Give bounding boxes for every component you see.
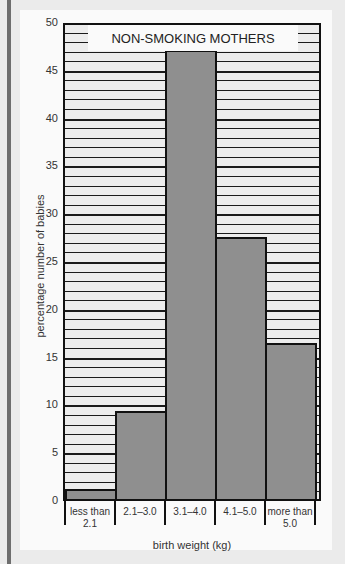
x-tick-label: more than5.0 xyxy=(265,506,315,530)
x-axis-label: birth weight (kg) xyxy=(63,539,321,551)
bar-1 xyxy=(115,411,167,499)
y-tick-label: 45 xyxy=(38,64,58,76)
x-tick-label: 3.1–4.0 xyxy=(165,506,215,518)
bar-4 xyxy=(265,343,317,499)
y-tick-label: 50 xyxy=(38,16,58,28)
bar-0 xyxy=(65,489,117,499)
bar-3 xyxy=(215,237,267,499)
x-tick-label: 4.1–5.0 xyxy=(215,506,265,518)
y-axis-label: percentage number of babies xyxy=(34,166,46,366)
y-tick-label: 40 xyxy=(38,112,58,124)
y-tick-label: 0 xyxy=(38,494,58,506)
chart-title: NON-SMOKING MOTHERS xyxy=(88,25,298,51)
x-tick-label: 2.1–3.0 xyxy=(115,506,165,518)
y-tick-label: 5 xyxy=(38,446,58,458)
y-tick-label: 10 xyxy=(38,398,58,410)
x-tick-label: less than2.1 xyxy=(65,506,115,530)
plot-area xyxy=(63,23,321,501)
left-frame-border xyxy=(7,0,11,564)
bar-2 xyxy=(165,50,217,499)
